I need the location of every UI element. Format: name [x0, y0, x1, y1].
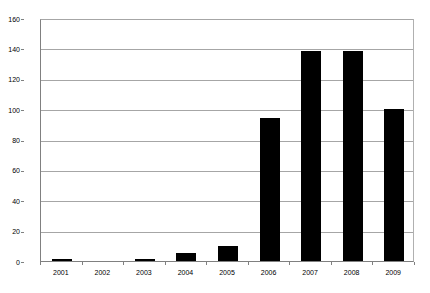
- x-axis-category: 2007: [289, 262, 331, 293]
- y-axis-tick-label: 100: [2, 107, 20, 114]
- bar: [384, 109, 404, 261]
- gridline: [41, 19, 413, 20]
- x-axis-tick-label: 2003: [123, 269, 165, 276]
- y-axis-tick-label: 120: [2, 76, 20, 83]
- bar: [218, 246, 238, 261]
- x-axis-category: 2008: [331, 262, 373, 293]
- x-axis-category: 2005: [206, 262, 248, 293]
- plot-area: [40, 19, 414, 262]
- y-axis-tick-mark: [21, 141, 24, 142]
- x-axis-tick-label: 2008: [331, 269, 373, 276]
- y-axis-tick-mark: [21, 80, 24, 81]
- x-axis-tick-mark: [372, 262, 373, 265]
- bar: [343, 51, 363, 261]
- y-axis-tick-label: 160: [2, 16, 20, 23]
- x-axis: 200120022003200420052006200720082009: [40, 262, 415, 293]
- y-axis-tick-mark: [21, 262, 24, 263]
- x-axis-tick-mark: [206, 262, 207, 265]
- x-axis-tick-mark: [331, 262, 332, 265]
- y-axis: 020406080100120140160: [0, 0, 40, 293]
- y-axis-tick-mark: [21, 171, 24, 172]
- x-axis-end-tick: [414, 262, 415, 293]
- bar: [52, 259, 72, 261]
- y-axis-tick-label: 0: [2, 259, 20, 266]
- x-axis-tick-mark: [248, 262, 249, 265]
- y-axis-tick-mark: [21, 19, 24, 20]
- x-axis-tick-label: 2007: [289, 269, 331, 276]
- y-axis-tick-label: 60: [2, 167, 20, 174]
- bar: [260, 118, 280, 261]
- x-axis-category: 2009: [372, 262, 414, 293]
- bar: [135, 259, 155, 261]
- x-axis-tick-mark: [123, 262, 124, 265]
- bar-chart-figure: 020406080100120140160 200120022003200420…: [0, 0, 430, 293]
- x-axis-tick-mark: [40, 262, 41, 265]
- x-axis-tick-mark: [414, 262, 415, 265]
- x-axis-tick-mark: [82, 262, 83, 265]
- x-axis-tick-label: 2009: [372, 269, 414, 276]
- y-axis-tick-label: 20: [2, 228, 20, 235]
- y-axis-tick-label: 140: [2, 46, 20, 53]
- x-axis-tick-label: 2004: [165, 269, 207, 276]
- x-axis-tick-label: 2001: [40, 269, 82, 276]
- y-axis-tick-mark: [21, 201, 24, 202]
- x-axis-tick-mark: [289, 262, 290, 265]
- x-axis-category: 2006: [248, 262, 290, 293]
- gridline: [41, 49, 413, 50]
- y-axis-tick-label: 80: [2, 137, 20, 144]
- y-axis-tick-mark: [21, 232, 24, 233]
- x-axis-category: 2001: [40, 262, 82, 293]
- bar: [176, 253, 196, 261]
- y-axis-tick-mark: [21, 110, 24, 111]
- bar: [301, 51, 321, 261]
- x-axis-tick-label: 2002: [82, 269, 124, 276]
- x-axis-tick-mark: [165, 262, 166, 265]
- x-axis-category: 2002: [82, 262, 124, 293]
- y-axis-tick-label: 40: [2, 198, 20, 205]
- x-axis-tick-label: 2005: [206, 269, 248, 276]
- y-axis-tick-mark: [21, 49, 24, 50]
- x-axis-category: 2003: [123, 262, 165, 293]
- x-axis-tick-label: 2006: [248, 269, 290, 276]
- x-axis-category: 2004: [165, 262, 207, 293]
